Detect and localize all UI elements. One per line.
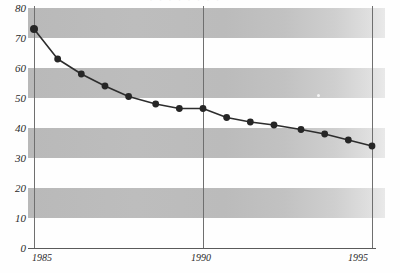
data-point-marker [125, 93, 132, 100]
series-line [34, 29, 372, 146]
data-point-marker [369, 143, 376, 150]
data-point-marker [176, 105, 183, 112]
data-point-marker [321, 131, 328, 138]
data-point-marker [54, 56, 61, 63]
data-point-marker [298, 126, 305, 133]
data-point-marker [223, 114, 230, 121]
data-point-marker [345, 137, 352, 144]
data-point-marker [152, 101, 159, 108]
data-point-marker [247, 119, 254, 126]
data-point-marker [200, 105, 207, 112]
series-line-layer [0, 0, 400, 273]
image-speck-artifact [317, 94, 320, 97]
data-point-marker [78, 71, 85, 78]
data-point-marker [30, 25, 38, 33]
data-point-marker [271, 122, 278, 129]
data-point-marker [102, 83, 109, 90]
line-chart: · · · · · · · · 010203040506070801985199… [0, 0, 400, 273]
